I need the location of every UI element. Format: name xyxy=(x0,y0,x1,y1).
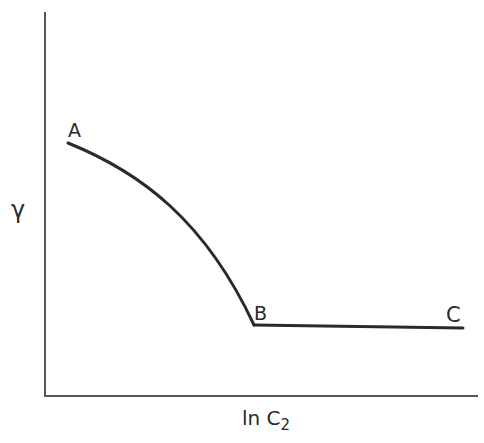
x-axis-label-main: ln C xyxy=(242,406,281,430)
point-label-c: C xyxy=(446,303,461,327)
curve-segment-bc xyxy=(254,325,463,328)
x-axis-label-subscript: 2 xyxy=(281,416,291,434)
curve-segment-ab xyxy=(68,143,254,325)
y-axis-label: γ xyxy=(11,196,25,224)
point-label-b: B xyxy=(254,302,267,324)
point-label-a: A xyxy=(68,119,81,141)
x-axis-label: ln C2 xyxy=(242,406,290,434)
chart-canvas: A B C γ ln C2 xyxy=(0,0,484,443)
